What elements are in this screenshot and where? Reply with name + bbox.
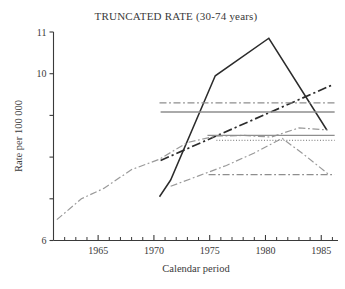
y-axis-ticks: [50, 32, 54, 241]
chart-title: TRUNCATED RATE (30-74 years): [95, 10, 258, 23]
x-tick-label-1980: 1980: [255, 245, 275, 256]
x-axis-title: Calendar period: [162, 263, 230, 274]
y-tick-label-10: 10: [37, 68, 47, 79]
y-axis: 61011 Rate per 100 000: [13, 27, 54, 247]
chart-figure: TRUNCATED RATE (30-74 years) TRUNCATED R…: [0, 0, 345, 289]
series-observed-rate: [159, 38, 326, 196]
series-age-cohort-fit: [161, 85, 332, 160]
x-tick-label-1965: 1965: [88, 245, 108, 256]
x-tick-label-1975: 1975: [200, 245, 220, 256]
x-tick-label-1985: 1985: [311, 245, 331, 256]
y-tick-label-11: 11: [37, 27, 47, 38]
x-tick-label-1970: 1970: [144, 245, 164, 256]
x-axis: 19651970197519801985 Calendar period: [54, 235, 339, 274]
truncated-rate-line-chart: TRUNCATED RATE (30-74 years) TRUNCATED R…: [0, 0, 345, 289]
chart-series-group: [57, 38, 335, 219]
y-axis-tick-labels: 61011: [37, 27, 47, 247]
y-tick-label-6: 6: [42, 235, 47, 246]
x-axis-tick-labels: 19651970197519801985: [88, 245, 331, 256]
y-axis-title: Rate per 100 000: [13, 100, 24, 172]
